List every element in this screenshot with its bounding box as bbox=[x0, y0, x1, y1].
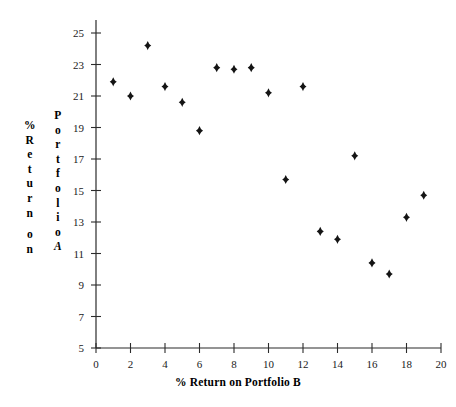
data-point-marker bbox=[110, 77, 117, 86]
data-point-marker bbox=[196, 126, 203, 135]
axis-label-char: A bbox=[54, 239, 62, 254]
y-tick-label: 17 bbox=[73, 153, 85, 165]
data-point-marker bbox=[403, 213, 410, 222]
axis-label-char: f bbox=[56, 166, 60, 181]
data-point-marker bbox=[144, 41, 151, 50]
axis-label-char: o bbox=[55, 181, 61, 196]
y-tick-label: 7 bbox=[79, 311, 85, 323]
data-point-marker bbox=[248, 63, 255, 72]
x-tick-label: 20 bbox=[436, 358, 448, 370]
data-point-marker bbox=[317, 227, 324, 236]
y-axis-label-portfolio-a: PortfolioA bbox=[54, 108, 62, 254]
x-tick-label: 18 bbox=[401, 358, 413, 370]
x-axis-ticks: 02468101214161820 bbox=[93, 343, 447, 370]
x-tick-label: 0 bbox=[93, 358, 99, 370]
axis-label-char: t bbox=[28, 162, 32, 177]
data-point-marker bbox=[386, 269, 393, 278]
axis-label-char: P bbox=[54, 108, 61, 123]
data-point-marker bbox=[162, 82, 169, 91]
data-point-marker bbox=[231, 65, 238, 74]
y-tick-label: 9 bbox=[79, 279, 85, 291]
axis-label-char: i bbox=[56, 210, 59, 225]
axis-label-char: l bbox=[56, 196, 59, 211]
y-tick-label: 23 bbox=[73, 59, 85, 71]
y-tick-label: 21 bbox=[73, 90, 84, 102]
y-axis-ticks: 5791113151719212325 bbox=[73, 27, 101, 354]
scatter-chart: 5791113151719212325 02468101214161820 %R… bbox=[0, 0, 456, 407]
y-tick-label: 19 bbox=[73, 122, 85, 134]
axis-label-char: n bbox=[27, 206, 33, 221]
y-tick-label: 11 bbox=[73, 248, 84, 260]
data-point-marker bbox=[265, 88, 272, 97]
x-tick-label: 12 bbox=[298, 358, 309, 370]
x-axis-title: % Return on Portfolio B bbox=[175, 376, 301, 388]
data-point-marker bbox=[420, 191, 427, 200]
x-tick-label: 10 bbox=[263, 358, 275, 370]
data-point-marker bbox=[351, 151, 358, 160]
axis-label-char: % bbox=[24, 118, 36, 133]
data-points bbox=[110, 41, 428, 279]
x-tick-label: 6 bbox=[197, 358, 203, 370]
axis-label-char: R bbox=[26, 133, 34, 148]
y-tick-label: 15 bbox=[73, 185, 85, 197]
data-point-marker bbox=[213, 63, 220, 72]
x-tick-label: 16 bbox=[367, 358, 379, 370]
y-tick-label: 13 bbox=[73, 216, 85, 228]
data-point-marker bbox=[300, 82, 307, 91]
x-tick-label: 14 bbox=[332, 358, 344, 370]
y-axis-label-percent-return-on: %Returnon bbox=[24, 118, 36, 256]
axis-label-char: o bbox=[55, 123, 61, 138]
data-point-marker bbox=[334, 235, 341, 244]
data-point-marker bbox=[127, 91, 134, 100]
axis-label-char: t bbox=[56, 152, 60, 167]
data-point-marker bbox=[282, 175, 289, 184]
axes bbox=[96, 20, 441, 348]
data-point-marker bbox=[179, 98, 186, 107]
y-tick-label: 5 bbox=[79, 342, 85, 354]
x-tick-label: 2 bbox=[128, 358, 134, 370]
x-tick-label: 4 bbox=[162, 358, 168, 370]
axis-label-char: r bbox=[27, 191, 32, 206]
axis-label-char: n bbox=[27, 242, 33, 257]
axis-label-char: o bbox=[27, 227, 33, 242]
axis-label-char: e bbox=[27, 147, 32, 162]
y-tick-label: 25 bbox=[73, 27, 85, 39]
data-point-marker bbox=[369, 258, 376, 267]
axis-label-char: r bbox=[55, 137, 60, 152]
x-tick-label: 8 bbox=[231, 358, 237, 370]
axis-label-char: u bbox=[27, 176, 33, 191]
plot-area: 5791113151719212325 02468101214161820 bbox=[0, 0, 456, 407]
axis-label-char: o bbox=[55, 225, 61, 240]
